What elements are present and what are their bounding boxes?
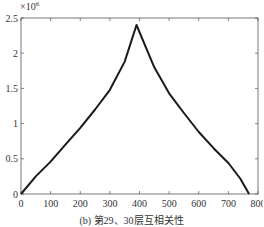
x-tick-label: 200	[73, 198, 88, 209]
x-tick-label: 0	[19, 198, 24, 209]
y-tick-label: 0.5	[6, 153, 19, 164]
y-tick-label: 1.5	[6, 83, 19, 94]
plot-frame	[21, 18, 258, 194]
y-tick-label: 0	[13, 189, 18, 200]
plot-axes	[21, 18, 258, 194]
x-tick-label: 800	[251, 198, 264, 209]
x-tick-label: 100	[43, 198, 58, 209]
x-tick-label: 400	[132, 198, 147, 209]
x-tick-label: 300	[102, 198, 117, 209]
x-tick-label: 700	[221, 198, 236, 209]
y-tick-label: 2	[13, 48, 18, 59]
x-tick-label: 500	[162, 198, 177, 209]
x-tick-labels: 0100200300400500600700800	[19, 198, 264, 209]
y-multiplier-label: ×106	[20, 0, 40, 12]
axis-ticks	[21, 18, 258, 194]
series-line	[21, 25, 249, 194]
figure-caption: (b) 第29、30层互相关性	[0, 212, 263, 227]
line-chart: 0100200300400500600700800 00.511.522.5 ×…	[0, 0, 263, 227]
y-tick-label: 1	[13, 118, 18, 129]
x-tick-label: 600	[191, 198, 206, 209]
y-tick-labels: 00.511.522.5	[6, 13, 19, 200]
data-series	[21, 25, 249, 194]
y-tick-label: 2.5	[6, 13, 19, 24]
